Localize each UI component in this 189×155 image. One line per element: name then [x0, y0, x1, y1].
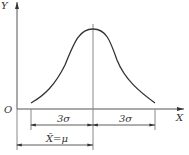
- x-axis-label: X: [175, 112, 184, 123]
- right-span-label: 3σ: [119, 113, 133, 124]
- normal-distribution-diagram: Y X O 3σ 3σ X̄=μ: [0, 0, 189, 155]
- left-span-label: 3σ: [57, 113, 71, 124]
- origin-label: O: [4, 104, 12, 115]
- mean-span-label: X̄=μ: [45, 133, 68, 144]
- y-axis-label: Y: [1, 0, 9, 11]
